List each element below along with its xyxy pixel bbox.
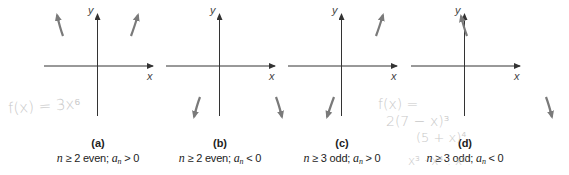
panel-d-graph bbox=[411, 14, 552, 117]
handwritten-note-c-line2: 2(7 − x)³ bbox=[386, 113, 449, 129]
caption-sign-condition: < 0 bbox=[243, 152, 261, 164]
panel-b-x-label: x bbox=[269, 70, 275, 82]
panel-a-caption: n ≥ 2 even; an > 0 bbox=[57, 151, 139, 166]
panel-c-caption: n ≥ 3 odd; an > 0 bbox=[303, 151, 380, 166]
panel-b-caption: n ≥ 2 even; an < 0 bbox=[179, 151, 261, 166]
handwritten-note-c-line1: f(x) = bbox=[378, 96, 418, 112]
caption-degree-condition: ≥ 3 odd; bbox=[309, 152, 353, 164]
right-end-arrow-up bbox=[131, 15, 138, 36]
panel-d-x-label: x bbox=[514, 70, 520, 82]
left-end-arrow-down bbox=[327, 97, 334, 117]
left-end-arrow-down bbox=[194, 97, 200, 117]
panel-b-label: (b) bbox=[170, 137, 270, 149]
caption-degree-condition: ≥ 2 even; bbox=[63, 152, 112, 164]
right-end-arrow-up bbox=[376, 15, 383, 36]
panel-c-label: (c) bbox=[292, 137, 392, 149]
caption-sign-condition: > 0 bbox=[121, 152, 139, 164]
panel-b-graph bbox=[166, 14, 282, 117]
right-end-arrow-down bbox=[546, 97, 552, 117]
left-end-arrow-up bbox=[57, 15, 63, 36]
caption-sign-condition: < 0 bbox=[486, 152, 504, 164]
handwritten-note-c-line3: (5 + x)⁴ bbox=[416, 130, 466, 145]
panel-a-y-label: y bbox=[88, 4, 94, 16]
caption-sign-condition: > 0 bbox=[363, 152, 381, 164]
caption-degree-condition: ≥ 2 even; bbox=[185, 152, 234, 164]
panel-c-x-label: x bbox=[391, 70, 397, 82]
handwritten-note-c-line4: x³ · x⁴ : x⁷ bbox=[408, 154, 466, 168]
panel-a-label: (a) bbox=[48, 137, 148, 149]
panel-c-y-label: y bbox=[332, 4, 338, 16]
panel-b-y-label: y bbox=[210, 4, 216, 16]
panel-d-y-label: y bbox=[455, 4, 461, 16]
panel-a-x-label: x bbox=[147, 70, 153, 82]
right-end-arrow-down bbox=[276, 97, 282, 117]
